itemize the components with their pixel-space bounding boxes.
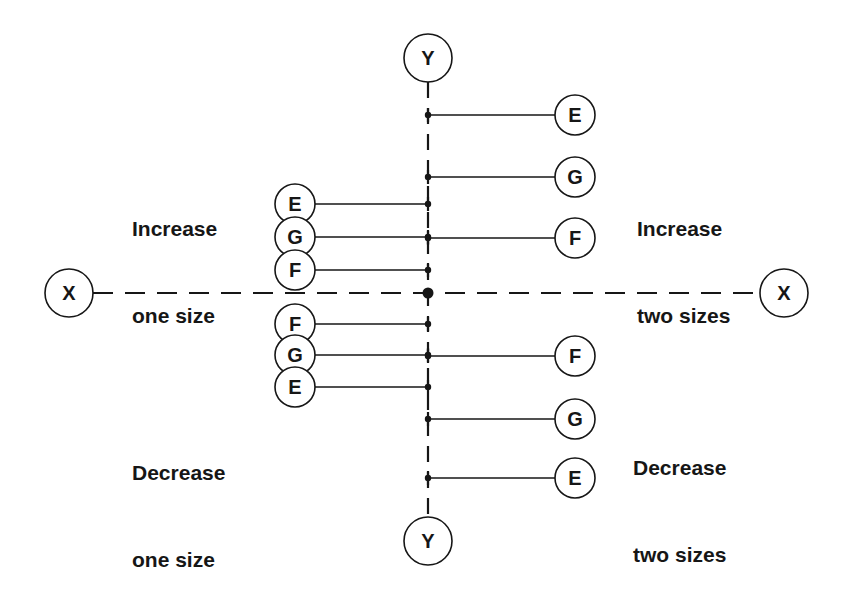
node-letter: G (287, 344, 303, 366)
x-axis-left-node: X (45, 269, 93, 317)
decrease-two-line1: Decrease (633, 453, 726, 482)
node-letter: X (62, 282, 76, 304)
decrease-two-sizes-label: Decrease two sizes (633, 395, 726, 598)
node-letter: Y (421, 47, 435, 69)
node-letter: E (568, 104, 581, 126)
node-letter: F (569, 345, 581, 367)
node-letter: E (288, 376, 301, 398)
increase-one-line2: one size (132, 301, 217, 330)
node-letter: F (569, 227, 581, 249)
node-letter: E (288, 193, 301, 215)
origin-dot (423, 288, 434, 299)
increase-two-line1: Increase (637, 214, 730, 243)
decrease-two-line2: two sizes (633, 540, 726, 569)
increase-two-line2: two sizes (637, 301, 730, 330)
node-letter: E (568, 467, 581, 489)
node-decrease-one-e: E (275, 367, 315, 407)
node-letter: X (777, 282, 791, 304)
x-axis-right-node: X (760, 269, 808, 317)
decrease-one-size-label: Decrease one size (132, 400, 225, 600)
node-decrease-two-f: F (555, 336, 595, 376)
node-letter: F (289, 259, 301, 281)
decrease-one-line2: one size (132, 545, 225, 574)
y-axis-bottom-node: Y (404, 517, 452, 565)
connector-lines (315, 108, 555, 485)
node-increase-two-g: G (555, 157, 595, 197)
node-letter: G (287, 226, 303, 248)
y-axis-top-node: Y (404, 34, 452, 82)
node-increase-two-e: E (555, 95, 595, 135)
decrease-one-line1: Decrease (132, 458, 225, 487)
node-increase-two-f: F (555, 218, 595, 258)
node-decrease-two-e: E (555, 458, 595, 498)
increase-two-sizes-label: Increase two sizes (637, 156, 730, 359)
node-letter: G (567, 166, 583, 188)
increase-one-size-label: Increase one size (132, 156, 217, 359)
node-letter: F (289, 313, 301, 335)
node-letter: G (567, 408, 583, 430)
node-decrease-two-g: G (555, 399, 595, 439)
node-letter: Y (421, 530, 435, 552)
increase-one-line1: Increase (132, 214, 217, 243)
node-increase-one-f: F (275, 250, 315, 290)
